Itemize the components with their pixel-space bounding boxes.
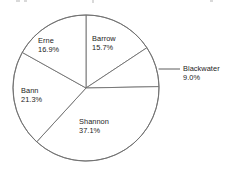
slice-label-blackwater-name: Blackwater <box>183 64 220 73</box>
slice-label-barrow: Barrow 15.7% <box>92 34 116 52</box>
pie-chart-figure: Erne 16.9% Barrow 15.7% Blackwater 9.0% … <box>0 0 234 183</box>
slice-label-bann: Bann 21.3% <box>21 86 42 104</box>
slice-label-blackwater-value: 9.0% <box>183 73 220 82</box>
slice-label-blackwater: Blackwater 9.0% <box>183 64 220 82</box>
slice-label-shannon: Shannon 37.1% <box>79 117 109 135</box>
slice-label-erne: Erne 16.9% <box>38 36 59 54</box>
slice-label-barrow-name: Barrow <box>92 34 116 43</box>
slice-label-shannon-name: Shannon <box>79 117 109 126</box>
slice-label-barrow-value: 15.7% <box>92 43 116 52</box>
slice-label-bann-name: Bann <box>21 86 42 95</box>
slice-label-bann-value: 21.3% <box>21 95 42 104</box>
slice-label-erne-name: Erne <box>38 36 59 45</box>
slice-label-erne-value: 16.9% <box>38 45 59 54</box>
slice-label-shannon-value: 37.1% <box>79 126 109 135</box>
